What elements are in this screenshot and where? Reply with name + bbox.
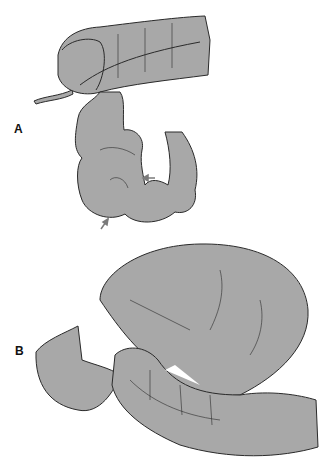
- appendix: [34, 90, 73, 104]
- colon-illustration: [0, 0, 333, 470]
- panel-a-drawing: [34, 16, 210, 222]
- transverse-colon: [58, 16, 210, 94]
- panel-b-drawing: [36, 244, 318, 456]
- sigmoid-loop: [75, 92, 197, 222]
- left-limb: [36, 326, 120, 411]
